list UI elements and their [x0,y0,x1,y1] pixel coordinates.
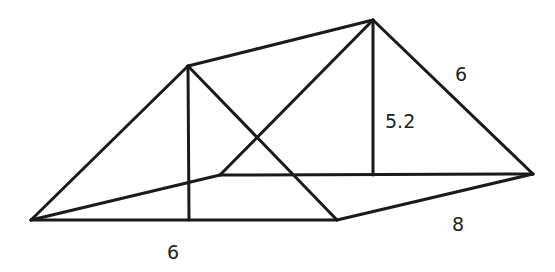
edge-front-right-slope [188,66,337,220]
edge-back-right-slope [373,20,533,174]
label-length: 8 [452,215,464,234]
label-front-base: 6 [167,243,179,262]
front-altitude [188,66,189,220]
label-height: 5.2 [385,112,415,131]
prism-diagram [0,0,555,272]
edge-front-left-slope [31,66,188,220]
edge-back-base [220,174,533,175]
edge-top-ridge [188,20,373,66]
label-slant-side: 6 [455,65,467,84]
edge-bottom-left-length [31,175,220,220]
edge-bottom-right-length [337,174,533,220]
edge-back-left-slope [220,20,373,175]
